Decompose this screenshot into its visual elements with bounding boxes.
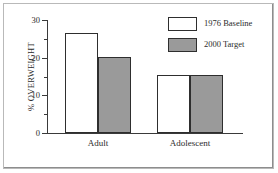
- x-axis-line: [47, 133, 243, 134]
- bar-adolescent-baseline: [157, 75, 190, 133]
- chart-legend: 1976 Baseline 2000 Target: [168, 13, 252, 55]
- y-tick-label-0: 0: [36, 129, 40, 138]
- legend-swatch-target-icon: [168, 38, 197, 52]
- y-tick-label-10: 10: [32, 91, 41, 100]
- y-axis-line: [47, 20, 48, 134]
- y-tick-label-30: 30: [32, 16, 41, 25]
- legend-item-target: 2000 Target: [168, 34, 252, 55]
- y-axis-title: % OVERWEIGHT: [26, 20, 36, 133]
- bar-adult-target: [98, 57, 131, 133]
- bar-adolescent-target: [190, 75, 223, 133]
- legend-swatch-baseline-icon: [168, 17, 197, 31]
- legend-item-baseline: 1976 Baseline: [168, 13, 252, 34]
- bar-adult-baseline: [65, 33, 98, 133]
- x-axis-label-adolescent: Adolescent: [157, 139, 223, 148]
- legend-label-baseline: 1976 Baseline: [204, 19, 252, 28]
- chart-figure: % OVERWEIGHT 0 10 20 30: [0, 0, 278, 173]
- x-axis-label-adult: Adult: [65, 139, 131, 148]
- legend-label-target: 2000 Target: [204, 40, 244, 49]
- y-tick-label-20: 20: [32, 53, 41, 62]
